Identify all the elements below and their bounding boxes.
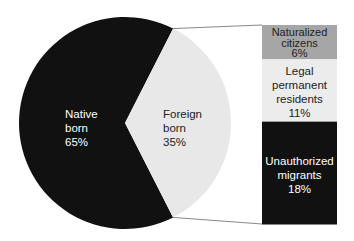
label-text: Naturalized xyxy=(262,27,337,38)
label-text: residents xyxy=(262,92,337,106)
label-value: 6% xyxy=(262,48,337,59)
label-native-born: Native born 65% xyxy=(65,107,98,149)
label-text: permanent xyxy=(262,78,337,92)
label-value: 65% xyxy=(65,135,98,149)
label-legal-permanent-residents: Legal permanent residents 11% xyxy=(262,64,337,120)
label-value: 18% xyxy=(262,182,337,196)
connector-line-top xyxy=(173,25,262,29)
label-value: 11% xyxy=(262,106,337,120)
label-text: born xyxy=(163,121,202,135)
label-text: Foreign xyxy=(163,107,202,121)
connector-line-bottom xyxy=(173,217,262,224)
label-text: Legal xyxy=(262,64,337,78)
label-value: 35% xyxy=(163,135,202,149)
label-text: Unauthorized xyxy=(262,154,337,168)
label-text: Native xyxy=(65,107,98,121)
label-text: born xyxy=(65,121,98,135)
label-text: migrants xyxy=(262,168,337,182)
label-naturalized-citizens: Naturalized citizens 6% xyxy=(262,27,337,59)
label-foreign-born: Foreign born 35% xyxy=(163,107,202,149)
label-unauthorized-migrants: Unauthorized migrants 18% xyxy=(262,154,337,196)
